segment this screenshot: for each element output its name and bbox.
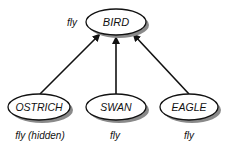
node-ostrich-label: OSTRICH bbox=[15, 101, 63, 113]
node-eagle-label: EAGLE bbox=[171, 101, 207, 113]
eagle-property: fly bbox=[184, 130, 195, 141]
swan-property: fly bbox=[110, 130, 121, 141]
node-bird-label: BIRD bbox=[103, 16, 129, 28]
ostrich-property: fly (hidden) bbox=[15, 130, 64, 141]
node-bird: BIRD bbox=[86, 9, 149, 38]
edge-ostrich-bird bbox=[40, 35, 99, 94]
node-ostrich: OSTRICH bbox=[8, 94, 73, 123]
node-swan: SWAN bbox=[86, 94, 149, 123]
node-swan-label: SWAN bbox=[100, 101, 132, 113]
edge-eagle-bird bbox=[134, 35, 189, 94]
inheritance-diagram: BIRD fly OSTRICH fly (hidden) SWAN fly E… bbox=[0, 0, 232, 149]
node-eagle: EAGLE bbox=[160, 94, 221, 123]
bird-property: fly bbox=[67, 17, 78, 28]
